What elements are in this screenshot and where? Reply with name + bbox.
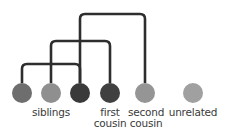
label-second-cousin-line2: cousin	[127, 118, 165, 129]
person-node-n4	[100, 83, 120, 103]
person-node-n5	[135, 83, 155, 103]
label-siblings: siblings	[30, 107, 72, 118]
person-node-n3	[70, 83, 90, 103]
person-node-n2	[41, 83, 61, 103]
label-first-cousin-line2: cousin	[92, 118, 128, 129]
second-cousin-bracket	[80, 14, 145, 83]
label-unrelated: unrelated	[168, 107, 218, 118]
person-node-n6	[183, 83, 203, 103]
person-node-n1	[12, 83, 32, 103]
person-nodes	[12, 83, 203, 103]
bracket-lines	[22, 14, 145, 83]
